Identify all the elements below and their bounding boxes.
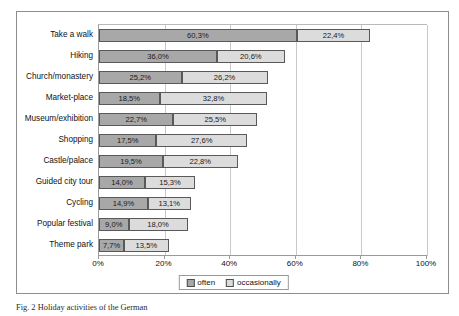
y-axis-label: Hiking	[17, 45, 98, 66]
figure: Take a walkHikingChurch/monasteryMarket-…	[0, 0, 459, 316]
y-axis-label: Guided city tour	[17, 171, 98, 192]
bar-segment-occasionally: 20,6%	[217, 50, 285, 63]
x-axis-tick-label: 80%	[352, 259, 368, 268]
x-axis-tick-label: 100%	[416, 259, 436, 268]
bar-segment-occasionally: 25,5%	[173, 113, 257, 126]
chart-frame: Take a walkHikingChurch/monasteryMarket-…	[16, 11, 449, 294]
legend-swatch-icon	[186, 279, 194, 287]
bar-segment-often: 22,7%	[99, 113, 173, 126]
bar-segment-occasionally: 15,3%	[145, 176, 195, 189]
bar-row: 7,7%13,5%	[99, 235, 427, 256]
bar-row: 14,0%15,3%	[99, 172, 427, 193]
y-axis-label: Shopping	[17, 129, 98, 150]
bar-segment-occasionally: 18,0%	[129, 218, 188, 231]
y-axis-label: Castle/palace	[17, 150, 98, 171]
bar-row: 60,3%22,4%	[99, 25, 427, 46]
bar-segment-often: 7,7%	[99, 239, 124, 252]
bar-segment-often: 25,2%	[99, 71, 182, 84]
bar-segment-often: 19,5%	[99, 155, 163, 168]
y-axis-label: Cycling	[17, 192, 98, 213]
bar-segment-often: 18,5%	[99, 92, 160, 105]
x-axis-tick-label: 20%	[156, 259, 172, 268]
y-axis-label: Museum/exhibition	[17, 108, 98, 129]
y-axis-label: Theme park	[17, 234, 98, 255]
y-axis-category-labels: Take a walkHikingChurch/monasteryMarket-…	[17, 24, 98, 255]
bar-segment-often: 14,0%	[99, 176, 145, 189]
legend: oftenoccasionally	[178, 275, 288, 290]
bar-row: 22,7%25,5%	[99, 109, 427, 130]
y-axis-label: Market-place	[17, 87, 98, 108]
bar-segment-occasionally: 26,2%	[182, 71, 268, 84]
bar-segment-often: 9,0%	[99, 218, 129, 231]
bar-rows: 60,3%22,4%36,0%20,6%25,2%26,2%18,5%32,8%…	[99, 25, 427, 256]
bar-row: 19,5%22,8%	[99, 151, 427, 172]
legend-label: occasionally	[237, 278, 281, 287]
x-axis-tick-label: 40%	[221, 259, 237, 268]
bar-segment-occasionally: 32,8%	[160, 92, 268, 105]
bar-segment-often: 14,9%	[99, 197, 148, 210]
y-axis-label: Church/monastery	[17, 66, 98, 87]
bar-row: 18,5%32,8%	[99, 88, 427, 109]
y-axis-label: Popular festival	[17, 213, 98, 234]
x-axis-tick-label: 60%	[287, 259, 303, 268]
legend-swatch-icon	[226, 279, 234, 287]
bar-segment-often: 17,5%	[99, 134, 156, 147]
legend-item: often	[186, 278, 215, 287]
bar-row: 25,2%26,2%	[99, 67, 427, 88]
y-axis-label: Take a walk	[17, 24, 98, 45]
plot-area: 60,3%22,4%36,0%20,6%25,2%26,2%18,5%32,8%…	[98, 24, 427, 256]
gridline	[427, 25, 428, 256]
bar-segment-occasionally: 27,6%	[156, 134, 247, 147]
bar-row: 17,5%27,6%	[99, 130, 427, 151]
bar-segment-occasionally: 13,1%	[148, 197, 191, 210]
legend-label: often	[197, 278, 215, 287]
figure-caption: Fig. 2 Holiday activities of the German	[16, 303, 436, 312]
bar-row: 36,0%20,6%	[99, 46, 427, 67]
bar-segment-often: 36,0%	[99, 50, 217, 63]
x-axis-tick-labels: 0%20%40%60%80%100%	[17, 259, 450, 271]
bar-row: 9,0%18,0%	[99, 214, 427, 235]
bar-segment-occasionally: 22,8%	[163, 155, 238, 168]
bar-segment-occasionally: 13,5%	[124, 239, 168, 252]
bar-segment-often: 60,3%	[99, 29, 297, 42]
x-axis-tick-label: 0%	[92, 259, 104, 268]
bar-segment-occasionally: 22,4%	[297, 29, 370, 42]
plot-wrapper: Take a walkHikingChurch/monasteryMarket-…	[17, 12, 450, 295]
bar-row: 14,9%13,1%	[99, 193, 427, 214]
legend-item: occasionally	[226, 278, 281, 287]
